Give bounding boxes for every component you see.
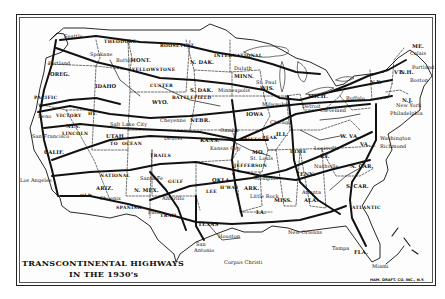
city-el-paso: Paso [148, 210, 160, 215]
highway-custer: CUSTER [150, 84, 173, 88]
city-atlanta: Atlanta [302, 190, 321, 195]
state-florida: FLA. [354, 250, 368, 255]
state-new-jersey: N.J. [402, 98, 413, 103]
state-kansas: KANS. [200, 138, 219, 143]
highway-international: INTERNATIONAL [214, 54, 262, 58]
state-new-york: N.Y. [370, 80, 382, 85]
state-wyoming: WYO. [152, 100, 168, 105]
city-salt-lake-city: Salt Lake City [110, 122, 147, 127]
route-atlantic [350, 104, 376, 246]
city-detroit: Detroit [302, 104, 321, 109]
map-title-line1: TRANSCONTINENTAL HIGHWAYS [22, 258, 184, 268]
city-minneapolis: Minneapolis [218, 88, 250, 93]
highway-spanish: SPANISH [116, 206, 142, 210]
city-corpus-christi: Corpus Christi [224, 260, 262, 265]
city-nashville: Nashville [314, 164, 339, 169]
highway-hy: HY. [88, 112, 97, 116]
state-missouri: MO. [252, 150, 264, 155]
state-iowa: IOWA [246, 112, 263, 117]
city-memphis: Memphis [254, 176, 278, 181]
city-kansas-city: Kansas City [210, 146, 241, 151]
highway-atlantic: ATLANTIC [352, 206, 381, 210]
city-new-york: New York [396, 103, 421, 108]
lake-ontario [336, 77, 354, 82]
city-st-louis: St. Louis [250, 156, 273, 161]
city-washington: Washington [380, 136, 411, 141]
city-portland-me: Portland [412, 65, 434, 70]
state-new-hampshire: N.H. [400, 70, 414, 75]
highway-battlefield: BATTLEFIELD [172, 96, 212, 100]
highway-yellowstone: YELLOWSTONE [132, 68, 175, 72]
city-buffalo: Buffalo [346, 96, 365, 101]
city-boston: Boston [410, 78, 428, 83]
city-los-angeles: Los Angeles [20, 178, 52, 183]
city-milwaukee: Milwaukee [262, 102, 291, 107]
city-cleveland: Cleveland [320, 108, 346, 113]
city-richmond: Richmond [380, 144, 406, 149]
city-new-orleans: New Orleans [288, 230, 322, 235]
state-south-dakota: S. DAK. [190, 88, 213, 93]
city-san-antonio-2: Antonio [194, 248, 214, 253]
state-tennessee: TENN. [296, 172, 316, 177]
route-northeast [330, 60, 406, 92]
city-philadelphia: Philadelphia [390, 111, 423, 116]
city-calais: Calais [410, 51, 426, 56]
state-montana: MONT. [130, 58, 151, 63]
highway-jefferson: JEFFERSON [234, 164, 267, 168]
map-title-line2: IN THE 1930's [22, 269, 184, 280]
city-seattle: Seattle [64, 34, 83, 39]
highway-ocean: OCEAN [122, 142, 142, 146]
state-north-carolina: N. CAR. [350, 164, 373, 169]
city-duluth: Duluth [234, 66, 252, 71]
highway-lincoln-west: LINCOLN [62, 132, 88, 136]
state-michigan: MICH. [308, 94, 328, 99]
route-texas [196, 196, 204, 240]
state-arizona: ARIZ. [96, 186, 113, 191]
highway-roosevelt: ROOSEVELT [160, 44, 194, 48]
state-north-dakota: N. DAK. [190, 60, 214, 65]
state-arkansas: ARK. [244, 186, 259, 191]
city-cheyenne: Cheyenne [160, 118, 186, 123]
state-maine: ME. [412, 44, 424, 49]
state-wisconsin: WIS. [260, 86, 274, 91]
highway-pikes: PIKES [244, 138, 262, 142]
city-houston: Houston [218, 234, 240, 239]
city-amarillo: Amarillo [162, 196, 184, 201]
state-nebraska: NEBR. [190, 118, 210, 123]
map-credit: HAM. DRAFT. CO. INC., N.Y. [370, 278, 424, 282]
city-miami: Miami [372, 264, 389, 269]
state-california: CALIF. [44, 150, 64, 155]
highway-pacific: PACIFIC [34, 96, 57, 100]
state-nevada: NEV. [66, 124, 80, 129]
city-santa-fe: Santa Fe [140, 176, 163, 181]
city-portland: Portland [48, 61, 70, 66]
highway-routes [38, 36, 406, 246]
state-illinois: ILL. [276, 132, 288, 137]
highway-old: OLD [80, 194, 92, 198]
state-texas: TEXAS [198, 222, 218, 227]
highway-trail: TRAIL [160, 214, 177, 218]
state-west-virginia: W. VA. [340, 134, 359, 139]
state-oregon: OREG. [50, 72, 70, 77]
map-title: TRANSCONTINENTAL HIGHWAYS IN THE 1930's [22, 258, 184, 280]
highway-dixie: DIXIE [290, 150, 307, 154]
city-reno: Reno [38, 114, 51, 119]
state-minnesota: MINN. [234, 74, 254, 79]
highway-to: TO [110, 142, 118, 146]
city-butte: Butte [116, 58, 130, 63]
state-oklahoma: OKLA. [212, 178, 231, 183]
highway-lee: LEE [206, 190, 217, 194]
city-spokane: Spokane [90, 52, 113, 57]
state-virginia: VA. [360, 142, 370, 147]
city-denver: Denver [164, 136, 183, 141]
highway-peak: PEAK [262, 136, 277, 140]
highway-victory: VICTORY [56, 114, 82, 118]
state-new-mexico: N. MEX. [134, 188, 159, 193]
city-omaha: Omaha [220, 128, 239, 133]
state-louisiana: LA. [256, 210, 266, 215]
highway-gulf: GULF [168, 180, 183, 184]
highway-national: NATIONAL [100, 174, 130, 178]
state-kentucky: KY. [320, 154, 330, 159]
highway-trails: TRAILS [150, 154, 171, 158]
bahamas [392, 228, 418, 254]
